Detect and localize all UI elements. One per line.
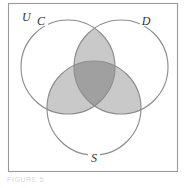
venn-diagram-figure: U C D S FIGURE 5 [0, 0, 189, 188]
universe-label: U [22, 10, 32, 24]
set-label-D: D [141, 14, 151, 28]
set-label-C: C [37, 14, 46, 28]
venn-diagram-canvas: U C D S [0, 0, 189, 188]
set-label-S: S [91, 151, 97, 165]
figure-caption-fragment: FIGURE 5 [7, 177, 63, 183]
